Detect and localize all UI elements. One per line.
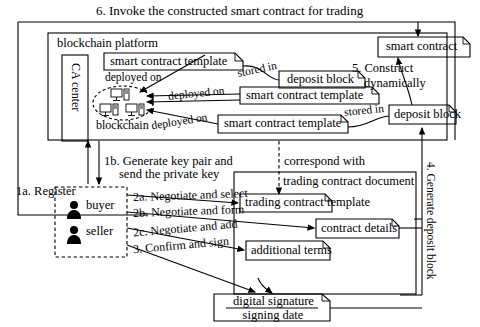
ca-center-label: CA center	[69, 63, 82, 111]
diagram-canvas: 6. Invoke the constructed smart contract…	[0, 0, 480, 327]
register-label: 1a. Register	[16, 185, 76, 198]
blockchain-node-icon-3	[126, 104, 144, 116]
blockchain-node-icon-2	[100, 104, 118, 116]
construct-label: 5. Construct	[352, 62, 413, 75]
deposit-bot-label: deposit block	[394, 108, 461, 121]
sct-bot-label: smart contract template	[224, 117, 341, 130]
sct-top-label: smart contract template	[110, 55, 227, 68]
blockchain-node-icon-1	[111, 89, 129, 101]
edge-to-signature	[258, 278, 272, 293]
trading-contract-document-label: trading contract document	[283, 175, 414, 188]
blockchain-label: blockchain	[96, 119, 149, 132]
step6-label: 6. Invoke the constructed smart contract…	[96, 4, 363, 18]
contract-details-label: contract details	[321, 222, 397, 235]
deployed-on-1-label: deployed on	[105, 71, 162, 83]
signing-date-label: signing date	[233, 309, 313, 322]
keypair-label-2: send the private key	[119, 168, 219, 181]
seller-icon	[67, 226, 81, 244]
sct-mid-label: smart contract template	[246, 89, 363, 102]
digital-signature-label: digital signature	[233, 295, 313, 308]
construct-dynamically-label: dynamically	[364, 77, 426, 90]
buyer-icon	[67, 201, 81, 219]
additional-terms-label: additional terms	[251, 244, 332, 257]
correspond-with-label: correspond with	[284, 155, 365, 168]
smart-contract-label: smart contract	[386, 40, 457, 53]
buyer-label: buyer	[86, 199, 114, 212]
generate-deposit-block-label: 4. Generate deposit block	[425, 162, 437, 280]
deposit-top-label: deposit block	[287, 73, 354, 86]
edge-deployed-on-2b	[147, 100, 240, 102]
edge-stored-in-2	[348, 116, 389, 127]
blockchain-platform-label: blockchain platform	[57, 37, 158, 50]
trading-contract-template-label: trading contract template	[245, 196, 370, 209]
seller-label: seller	[86, 225, 113, 238]
